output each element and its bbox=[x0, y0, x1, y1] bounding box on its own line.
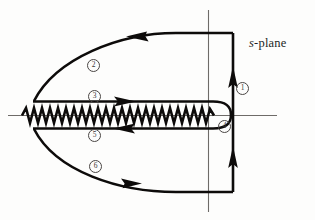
arrow-left-icon-top-arc bbox=[126, 32, 149, 42]
segment-label-6: 6 bbox=[89, 160, 102, 173]
keyhole-contour-diagram bbox=[0, 0, 315, 220]
page-title: s-plane bbox=[249, 36, 287, 51]
figure-container: s-plane 1 2 3 4 5 6 bbox=[0, 0, 315, 220]
segment-label-2: 2 bbox=[87, 59, 100, 72]
segment-label-3: 3 bbox=[88, 90, 101, 103]
segment-label-1: 1 bbox=[236, 82, 249, 95]
segment-label-5: 5 bbox=[88, 129, 101, 142]
segment-label-4: 4 bbox=[218, 120, 231, 133]
contour-segment-2-upper-arc bbox=[34, 33, 233, 101]
plane-label-suffix: -plane bbox=[254, 36, 286, 50]
